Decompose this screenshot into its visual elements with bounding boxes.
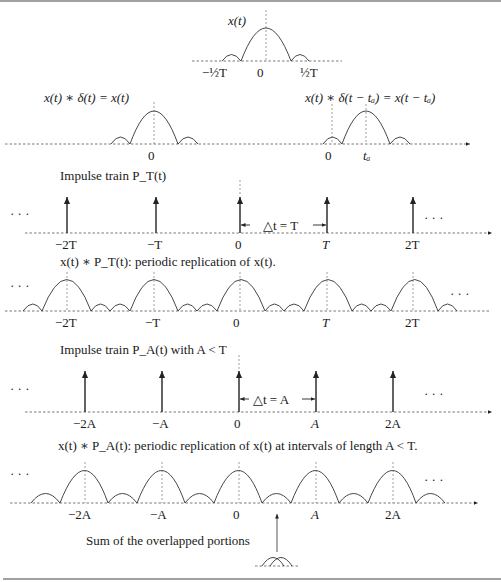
- tick-neg-A: −A: [152, 416, 169, 431]
- overlap-annotation: Sum of the overlapped portions: [86, 533, 250, 548]
- tick-neg-A: −A: [150, 507, 167, 522]
- spacing-A-label: △t = A: [253, 392, 290, 407]
- ellipsis-right: · · ·: [424, 472, 444, 487]
- impulse-train-T-panel: Impulse train P_T(t) △t = T · · · · · · …: [10, 168, 492, 252]
- tick-zero: 0: [257, 65, 264, 80]
- left-tick-zero: 0: [148, 148, 155, 163]
- spacing-T-label: △t = T: [263, 218, 298, 233]
- impulse-T-title: Impulse train P_T(t): [60, 168, 166, 183]
- identity-label: x(t) ∗ δ(t) = x(t): [43, 90, 129, 105]
- tick-zero: 0: [235, 237, 242, 252]
- replication-T-title: x(t) ∗ P_T(t): periodic replication of x…: [60, 254, 276, 269]
- tick-neg-2T: −2T: [55, 315, 77, 330]
- tick-ta: tₐ: [363, 148, 371, 163]
- tick-zero: 0: [233, 315, 240, 330]
- overlap-detail: [262, 558, 292, 567]
- impulse-A-title: Impulse train P_A(t) with A < T: [60, 342, 227, 357]
- ellipsis-right: · · ·: [424, 386, 444, 401]
- tick-neg-2A: −2A: [73, 416, 97, 431]
- tick-A: A: [310, 416, 319, 431]
- ellipsis-left: · · ·: [10, 206, 30, 221]
- tick-T: T: [322, 237, 330, 252]
- tick-zero: 0: [234, 416, 241, 431]
- replication-A-panel: x(t) ∗ P_A(t): periodic replication of x…: [10, 438, 478, 566]
- tick-neg-2T: −2T: [55, 237, 77, 252]
- tick-half-T: ½T: [300, 65, 318, 80]
- ellipsis-left: · · ·: [10, 466, 30, 481]
- pulse-label: x(t): [227, 13, 246, 28]
- tick-neg-half-T: −½T: [202, 65, 227, 80]
- replication-T-panel: x(t) ∗ P_T(t): periodic replication of x…: [5, 254, 490, 330]
- impulse-train-A-panel: Impulse train P_A(t) with A < T △t = A ·…: [10, 342, 492, 431]
- ellipsis-right: · · ·: [450, 286, 470, 301]
- right-tick-zero: 0: [325, 148, 332, 163]
- tick-2T: 2T: [405, 315, 420, 330]
- shift-label: x(t) ∗ δ(t − tₐ) = x(t − tₐ): [304, 90, 435, 105]
- tick-A: A: [310, 507, 319, 522]
- convolution-diagram: x(t) −½T 0 ½T x(t) ∗ δ(t) = x(t) 0 x(t) …: [0, 0, 501, 582]
- ellipsis-left: · · ·: [10, 381, 30, 396]
- tick-neg-T: −T: [147, 237, 162, 252]
- tick-2A: 2A: [385, 416, 402, 431]
- ellipsis-right: · · ·: [424, 210, 444, 225]
- tick-neg-2A: −2A: [68, 507, 92, 522]
- tick-2A: 2A: [385, 507, 402, 522]
- ellipsis-left: · · ·: [10, 278, 30, 293]
- shift-panel: x(t) ∗ δ(t) = x(t) 0 x(t) ∗ δ(t − tₐ) = …: [5, 90, 470, 163]
- replication-A-title: x(t) ∗ P_A(t): periodic replication of x…: [58, 438, 417, 453]
- tick-2T: 2T: [405, 237, 420, 252]
- tick-T: T: [322, 315, 330, 330]
- pulse-panel: x(t) −½T 0 ½T: [192, 10, 342, 80]
- tick-neg-T: −T: [145, 315, 160, 330]
- tick-zero: 0: [233, 507, 240, 522]
